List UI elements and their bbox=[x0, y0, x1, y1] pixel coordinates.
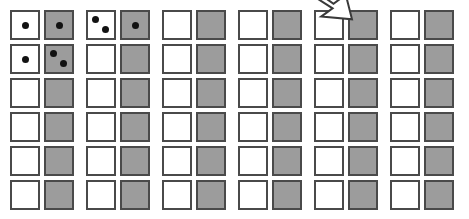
die-r6-c9 bbox=[314, 180, 344, 210]
die-r5-c11 bbox=[390, 146, 420, 176]
die-r1-c4 bbox=[120, 10, 150, 40]
die-r1-c6 bbox=[196, 10, 226, 40]
die-r4-c4 bbox=[120, 112, 150, 142]
die-r6-c4 bbox=[120, 180, 150, 210]
die-r5-c5 bbox=[162, 146, 192, 176]
die-r2-c6 bbox=[196, 44, 226, 74]
die-r6-c7 bbox=[238, 180, 268, 210]
die-r6-c10 bbox=[348, 180, 378, 210]
die-r4-c1 bbox=[10, 112, 40, 142]
die-r4-c6 bbox=[196, 112, 226, 142]
die-r3-c3 bbox=[86, 78, 116, 108]
die-r5-c3 bbox=[86, 146, 116, 176]
die-r5-c12 bbox=[424, 146, 454, 176]
die-r4-c2 bbox=[44, 112, 74, 142]
die-r2-c7 bbox=[238, 44, 268, 74]
pip-1 bbox=[56, 22, 63, 29]
die-r5-c4 bbox=[120, 146, 150, 176]
die-r2-c8 bbox=[272, 44, 302, 74]
die-r5-c6 bbox=[196, 146, 226, 176]
pip-1 bbox=[92, 16, 99, 23]
die-r3-c11 bbox=[390, 78, 420, 108]
die-r6-c8 bbox=[272, 180, 302, 210]
die-r1-c12 bbox=[424, 10, 454, 40]
die-r6-c2 bbox=[44, 180, 74, 210]
die-r2-c11 bbox=[390, 44, 420, 74]
die-r2-c12 bbox=[424, 44, 454, 74]
pip-2 bbox=[102, 26, 109, 33]
die-r3-c5 bbox=[162, 78, 192, 108]
die-r3-c12 bbox=[424, 78, 454, 108]
die-r1-c3 bbox=[86, 10, 116, 40]
die-r3-c7 bbox=[238, 78, 268, 108]
die-r1-c5 bbox=[162, 10, 192, 40]
die-r6-c3 bbox=[86, 180, 116, 210]
die-r4-c3 bbox=[86, 112, 116, 142]
die-r4-c10 bbox=[348, 112, 378, 142]
die-r3-c4 bbox=[120, 78, 150, 108]
die-r5-c7 bbox=[238, 146, 268, 176]
die-r4-c11 bbox=[390, 112, 420, 142]
die-r2-c9 bbox=[314, 44, 344, 74]
die-r6-c12 bbox=[424, 180, 454, 210]
die-r6-c6 bbox=[196, 180, 226, 210]
die-r5-c9 bbox=[314, 146, 344, 176]
die-r3-c2 bbox=[44, 78, 74, 108]
die-r4-c9 bbox=[314, 112, 344, 142]
die-r2-c4 bbox=[120, 44, 150, 74]
die-r5-c1 bbox=[10, 146, 40, 176]
die-r6-c1 bbox=[10, 180, 40, 210]
dice-grid-figure bbox=[0, 0, 469, 219]
die-r2-c3 bbox=[86, 44, 116, 74]
die-r2-c2 bbox=[44, 44, 74, 74]
die-r1-c1 bbox=[10, 10, 40, 40]
die-r3-c10 bbox=[348, 78, 378, 108]
die-r1-c9 bbox=[314, 10, 344, 40]
die-r4-c5 bbox=[162, 112, 192, 142]
pip-1 bbox=[132, 22, 139, 29]
die-r2-c1 bbox=[10, 44, 40, 74]
die-r3-c8 bbox=[272, 78, 302, 108]
die-r3-c6 bbox=[196, 78, 226, 108]
die-r1-c8 bbox=[272, 10, 302, 40]
pip-1 bbox=[50, 50, 57, 57]
die-r3-c1 bbox=[10, 78, 40, 108]
die-r4-c7 bbox=[238, 112, 268, 142]
die-r6-c5 bbox=[162, 180, 192, 210]
pip-1 bbox=[22, 56, 29, 63]
die-r4-c12 bbox=[424, 112, 454, 142]
die-r5-c10 bbox=[348, 146, 378, 176]
die-r4-c8 bbox=[272, 112, 302, 142]
die-r5-c8 bbox=[272, 146, 302, 176]
pip-1 bbox=[22, 22, 29, 29]
die-r5-c2 bbox=[44, 146, 74, 176]
die-r2-c5 bbox=[162, 44, 192, 74]
die-r1-c7 bbox=[238, 10, 268, 40]
dice-grid bbox=[0, 0, 469, 219]
die-r1-c10 bbox=[348, 10, 378, 40]
die-r2-c10 bbox=[348, 44, 378, 74]
die-r6-c11 bbox=[390, 180, 420, 210]
die-r3-c9 bbox=[314, 78, 344, 108]
die-r1-c11 bbox=[390, 10, 420, 40]
pip-2 bbox=[60, 60, 67, 67]
die-r1-c2 bbox=[44, 10, 74, 40]
